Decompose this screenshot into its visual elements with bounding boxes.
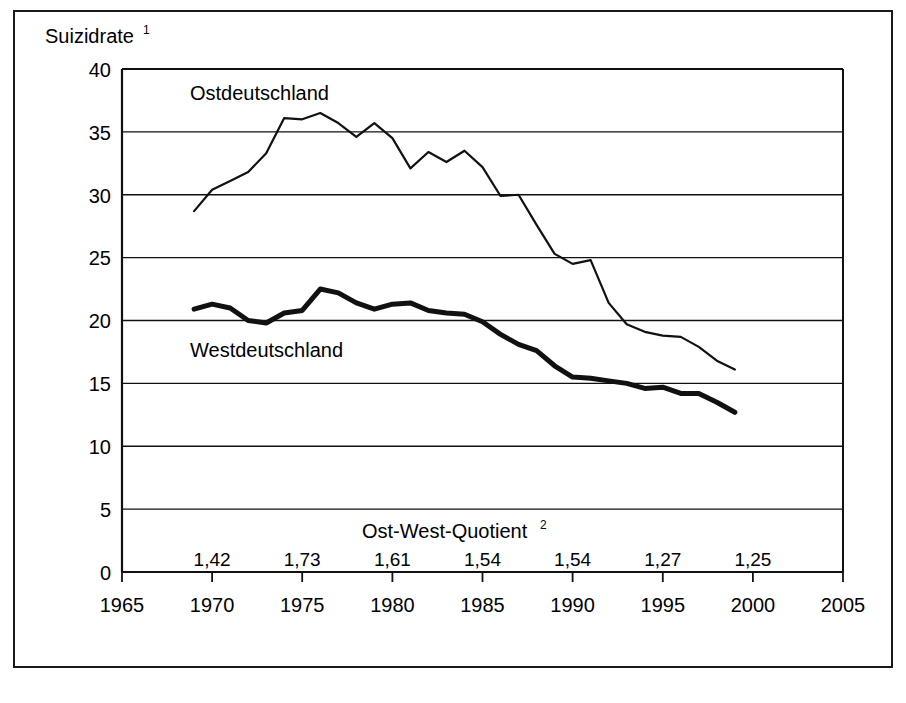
- quotient-row-label: Ost-West-Quotient: [362, 520, 528, 542]
- x-tick-label: 1980: [370, 594, 415, 616]
- suicide-rate-line-chart: Suizidrate 1 40 35 30 25 20 15 10 5 0 19…: [0, 0, 906, 703]
- x-tick-marks: [122, 572, 843, 582]
- series-label-westdeutschland: Westdeutschland: [190, 339, 343, 361]
- quotient-row-label-superscript: 2: [540, 518, 547, 532]
- x-tick-label: 1975: [280, 594, 325, 616]
- y-tick-label: 0: [100, 562, 111, 584]
- y-tick-label: 30: [89, 185, 111, 207]
- x-tick-label: 1985: [460, 594, 505, 616]
- y-tick-label: 5: [100, 499, 111, 521]
- x-tick-label: 2005: [821, 594, 866, 616]
- quotient-value: 1,27: [644, 549, 681, 570]
- chart-stage: Suizidrate 1 40 35 30 25 20 15 10 5 0 19…: [0, 0, 906, 703]
- y-tick-label: 20: [89, 310, 111, 332]
- x-tick-labels: 1965 1970 1975 1980 1985 1990 1995 2000 …: [100, 594, 866, 616]
- series-label-ostdeutschland: Ostdeutschland: [190, 82, 329, 104]
- quotient-value: 1,61: [374, 549, 411, 570]
- x-tick-label: 1995: [641, 594, 686, 616]
- y-tick-labels: 40 35 30 25 20 15 10 5 0: [89, 59, 111, 584]
- x-tick-label: 1990: [550, 594, 595, 616]
- quotient-value: 1,54: [464, 549, 501, 570]
- y-tick-label: 40: [89, 59, 111, 81]
- quotient-value: 1,42: [194, 549, 231, 570]
- y-axis-title: Suizidrate: [45, 25, 134, 47]
- y-tick-label: 25: [89, 247, 111, 269]
- y-tick-label: 35: [89, 122, 111, 144]
- x-tick-label: 1970: [190, 594, 235, 616]
- quotient-value: 1,73: [284, 549, 321, 570]
- y-tick-label: 15: [89, 373, 111, 395]
- quotient-value: 1,25: [734, 549, 771, 570]
- x-tick-label: 1965: [100, 594, 145, 616]
- quotient-value: 1,54: [554, 549, 591, 570]
- x-tick-label: 2000: [731, 594, 776, 616]
- y-axis-title-superscript: 1: [143, 23, 150, 37]
- y-tick-label: 10: [89, 436, 111, 458]
